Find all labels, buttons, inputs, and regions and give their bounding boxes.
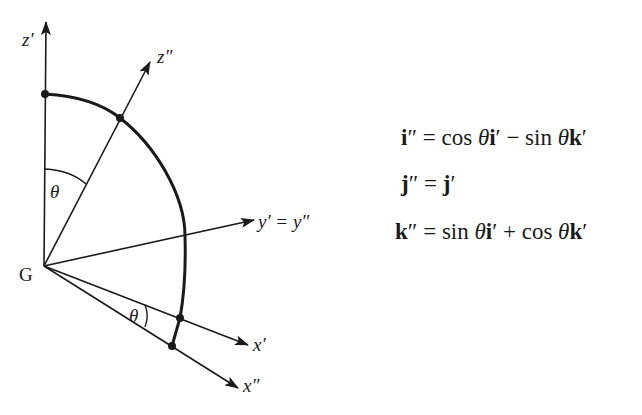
label-z-dprime: z″ [156, 46, 173, 67]
point-z-dprime [116, 114, 124, 122]
point-z-prime [41, 90, 49, 98]
x-dprime-axis [44, 266, 238, 388]
label-theta-upper: θ [50, 181, 59, 202]
label-theta-lower: θ [129, 305, 138, 326]
equation-i: i″ = cos θi′ − sin θk′ [401, 126, 587, 149]
z-dprime-axis [44, 62, 150, 266]
rotation-arc [45, 94, 185, 346]
y-axis [44, 220, 254, 266]
label-y: y′ = y″ [256, 211, 310, 232]
point-x-prime [176, 314, 184, 322]
label-z-prime: z′ [21, 29, 34, 50]
equation-j: j″ = j′ [401, 172, 455, 195]
angle-arc-lower [145, 305, 147, 327]
label-origin: G [19, 264, 33, 285]
z-prime-axis [44, 22, 46, 266]
point-x-dprime [168, 342, 176, 350]
x-prime-axis [44, 266, 248, 345]
label-x-dprime: x″ [242, 375, 260, 396]
equation-k: k″ = sin θi′ + cos θk′ [395, 220, 587, 243]
label-x-prime: x′ [252, 334, 266, 355]
rotation-diagram: z′ z″ y′ = y″ x′ x″ G θ θ [0, 0, 642, 415]
